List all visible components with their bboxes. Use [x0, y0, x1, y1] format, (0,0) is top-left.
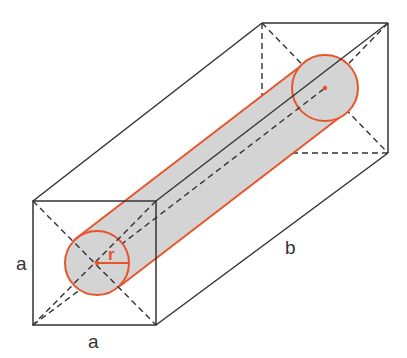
front-width-label: a [88, 331, 99, 352]
length-label: b [285, 237, 296, 258]
top-diagonal-edge [156, 23, 388, 201]
prism-cylinder-diagram: r a a b [0, 0, 407, 358]
back-center-dot [323, 86, 327, 90]
radius-label: r [108, 245, 115, 264]
front-height-label: a [16, 253, 27, 274]
